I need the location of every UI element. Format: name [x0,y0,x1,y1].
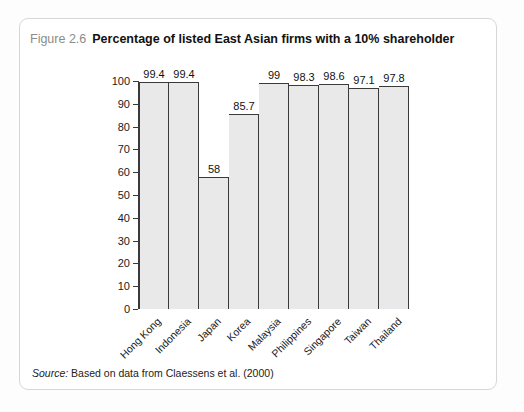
category-column: Singapore [320,311,350,381]
category-column: Thailand [380,311,410,381]
y-axis-tick-mark [133,263,138,264]
y-axis-tick-mark [133,172,138,173]
y-axis-tick-label: 40 [118,212,130,224]
bar-value-label: 98.3 [293,71,314,83]
y-axis-tick-label: 50 [118,189,130,201]
figure-title-row: Figure 2.6Percentage of listed East Asia… [30,29,454,47]
y-axis-tick-label: 60 [118,166,130,178]
y-axis-tick-mark [133,81,138,82]
y-axis-tick-label: 100 [112,75,130,87]
bar-column: 97.1 [349,81,379,309]
y-axis-tick-label: 80 [118,121,130,133]
bar-value-label: 99.4 [143,68,164,80]
source-label: Source: [32,367,68,379]
bar-value-label: 98.6 [323,70,344,82]
bar [349,88,379,309]
bar-value-label: 58 [208,163,220,175]
y-axis-tick-mark [133,241,138,242]
y-axis-tick-mark [133,286,138,287]
bar-value-label: 85.7 [233,100,254,112]
y-axis-tick-mark [133,127,138,128]
y-axis-tick-label: 0 [124,303,130,315]
bar-value-label: 97.8 [383,72,404,84]
chart-plot-area: 0102030405060708090100 99.499.45885.7999… [138,81,409,309]
bar-value-label: 99.4 [173,68,194,80]
bar-column: 85.7 [229,81,259,309]
y-axis-tick-mark [133,149,138,150]
bar [199,177,229,309]
figure-page: Figure 2.6Percentage of listed East Asia… [0,0,524,412]
y-axis-tick-label: 20 [118,257,130,269]
y-axis-tick-mark [133,195,138,196]
y-axis-tick-label: 30 [118,235,130,247]
bar-column: 58 [199,81,229,309]
bar-column: 98.3 [289,81,319,309]
bar-value-label: 99 [268,69,280,81]
source-text: Based on data from Claessens et al. (200… [71,367,274,379]
figure-card: Figure 2.6Percentage of listed East Asia… [19,18,497,390]
x-axis-category-label: Japan [194,315,223,344]
x-axis-category-label: Hong Kong [117,315,163,361]
bar [319,84,349,309]
bar-series: 99.499.45885.79998.398.697.197.8 [139,81,409,309]
bar [169,82,199,309]
bar [379,86,409,309]
bar-value-label: 97.1 [353,74,374,86]
y-axis-tick-label: 90 [118,98,130,110]
bar-column: 99.4 [139,81,169,309]
bar [259,83,289,309]
y-axis-tick-label: 10 [118,280,130,292]
bar [229,114,259,309]
bar [139,82,169,309]
bar-column: 97.8 [379,81,409,309]
bar-column: 99.4 [169,81,199,309]
figure-number: Figure 2.6 [30,32,86,46]
bar-column: 99 [259,81,289,309]
y-axis-tick-label: 70 [118,143,130,155]
page-title: Percentage of listed East Asian firms wi… [92,32,454,46]
source-note: Source: Based on data from Claessens et … [32,367,274,379]
y-axis-tick-mark [133,104,138,105]
bar [289,85,319,309]
bar-column: 98.6 [319,81,349,309]
y-axis-tick-mark [133,218,138,219]
y-axis-tick-mark [133,309,138,310]
